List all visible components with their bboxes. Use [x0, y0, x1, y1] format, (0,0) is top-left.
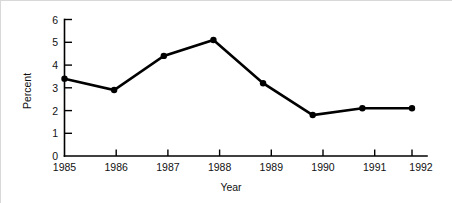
data-point-1990	[310, 112, 316, 118]
y-tick-label-6: 6	[52, 14, 58, 26]
line-chart-canvas: 6 5 4 3 2 1 0 1985 1986 1987 1988 1989 1…	[1, 1, 452, 203]
data-point-1992	[409, 105, 415, 111]
x-tick-label-1989: 1989	[260, 161, 284, 173]
x-tick-label-1987: 1987	[156, 161, 180, 173]
x-tick-label-1990: 1990	[311, 161, 335, 173]
x-tick-label-1986: 1986	[105, 161, 129, 173]
data-point-1988	[210, 37, 216, 43]
data-point-1991	[359, 105, 365, 111]
y-tick-label-3: 3	[52, 82, 58, 94]
y-tick-label-2: 2	[52, 105, 58, 117]
chart-figure: 6 5 4 3 2 1 0 1985 1986 1987 1988 1989 1…	[0, 0, 452, 203]
x-tick-label-1985: 1985	[53, 161, 77, 173]
y-axis-title: Percent	[21, 73, 33, 109]
x-tick-label-1988: 1988	[208, 161, 232, 173]
data-point-1987	[161, 53, 167, 59]
data-point-1985	[61, 75, 67, 81]
y-tick-label-1: 1	[52, 127, 58, 139]
y-tick-label-4: 4	[52, 59, 58, 71]
data-point-1989	[260, 80, 266, 86]
x-tick-label-1991: 1991	[363, 161, 387, 173]
data-point-1986	[111, 87, 117, 93]
x-axis-title: Year	[220, 181, 242, 193]
y-tick-label-5: 5	[52, 36, 58, 48]
x-tick-label-1992: 1992	[409, 161, 433, 173]
